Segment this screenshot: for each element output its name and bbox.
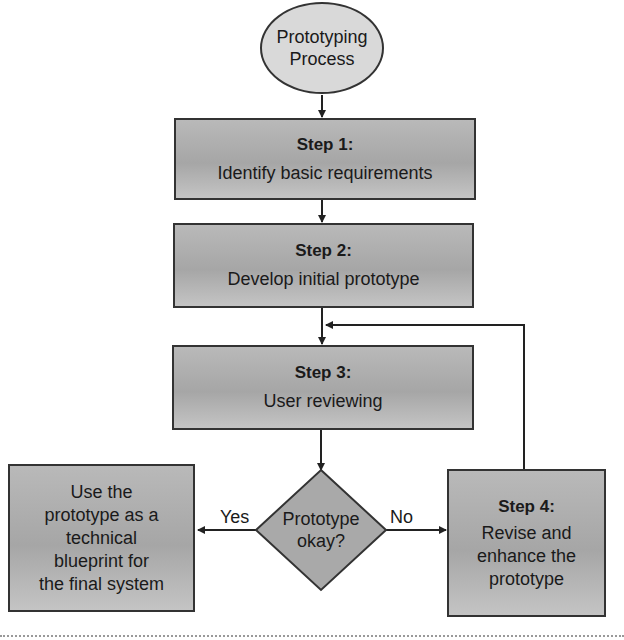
dotted-divider bbox=[0, 635, 624, 637]
step3-text: User reviewing bbox=[263, 390, 382, 413]
step1-box: Step 1: Identify basic requirements bbox=[174, 118, 476, 200]
decision-label: Prototype okay? bbox=[256, 508, 386, 552]
step4-line2: enhance the bbox=[477, 545, 576, 568]
step1-text: Identify basic requirements bbox=[217, 162, 432, 185]
outcome-line5: the final system bbox=[39, 573, 164, 596]
decision-line1: Prototype bbox=[256, 508, 386, 530]
start-label-line2: Process bbox=[289, 48, 354, 70]
outcome-line4: blueprint for bbox=[54, 550, 149, 573]
step4-box: Step 4: Revise and enhance the prototype bbox=[447, 469, 606, 617]
outcome-line1: Use the bbox=[70, 481, 132, 504]
step2-title: Step 2: bbox=[295, 240, 352, 262]
prototyping-flowchart: Prototyping Process Step 1: Identify bas… bbox=[0, 0, 624, 640]
no-label: No bbox=[390, 507, 413, 527]
outcome-line2: prototype as a bbox=[44, 504, 158, 527]
step2-text: Develop initial prototype bbox=[227, 268, 419, 291]
step4-title: Step 4: bbox=[498, 496, 555, 518]
step1-title: Step 1: bbox=[297, 134, 354, 156]
outcome-line3: technical bbox=[66, 527, 137, 550]
start-label-line1: Prototyping bbox=[276, 26, 367, 48]
yes-label: Yes bbox=[220, 507, 249, 527]
outcome-box: Use the prototype as a technical bluepri… bbox=[8, 464, 195, 612]
step4-line1: Revise and bbox=[481, 522, 571, 545]
decision-line2: okay? bbox=[256, 530, 386, 552]
start-ellipse: Prototyping Process bbox=[260, 2, 384, 94]
step4-line3: prototype bbox=[489, 568, 564, 591]
step3-box: Step 3: User reviewing bbox=[172, 345, 474, 430]
step2-box: Step 2: Develop initial prototype bbox=[173, 223, 474, 308]
step3-title: Step 3: bbox=[295, 362, 352, 384]
